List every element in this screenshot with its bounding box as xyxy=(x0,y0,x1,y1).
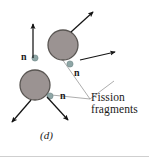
fission-fragments-label: Fission fragments xyxy=(91,91,138,115)
arrow-lower-left xyxy=(12,100,31,122)
diagram-canvas xyxy=(0,0,149,157)
arrow-right xyxy=(80,52,115,60)
neutron-label-middle-right: n xyxy=(74,68,80,79)
neutron-dot-middle-right xyxy=(67,61,73,67)
neutron-label-lower: n xyxy=(60,91,66,102)
fission-fragments-label-line2: fragments xyxy=(91,103,138,115)
fragment-upper-right xyxy=(48,30,78,60)
panel-label: (d) xyxy=(40,130,53,142)
neutron-label-upper-left: n xyxy=(21,52,27,63)
fragment-lower-left xyxy=(20,70,50,100)
fission-fragments-diagram: n n n Fission fragments (d) xyxy=(0,0,149,157)
leader-to-upper-fragment xyxy=(62,59,90,99)
fission-fragments-label-line1: Fission xyxy=(91,91,138,103)
arrow-upper-right xyxy=(71,12,93,32)
bottom-divider xyxy=(0,156,149,157)
